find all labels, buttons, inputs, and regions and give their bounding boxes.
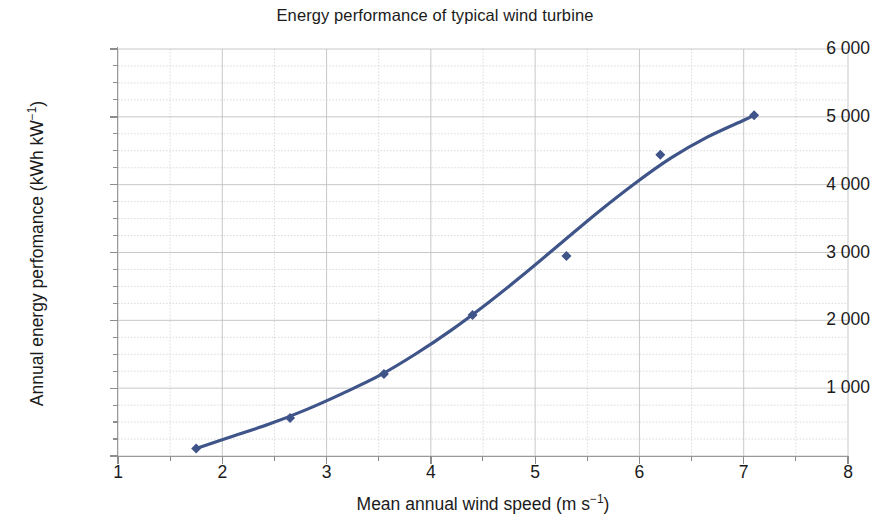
y-axis-title: Annual energy perfomance (kWh kW−1) [27,44,48,464]
y-axis-title-text: Annual energy perfomance (kWh kW [27,120,47,406]
y-tick-major [110,48,118,49]
y-tick-minor [113,286,118,287]
y-tick-minor [113,421,118,422]
y-tick-label: 5 000 [766,106,870,127]
y-tick-minor [113,133,118,134]
x-axis-title-tail: ) [604,494,610,514]
plot-area [118,49,848,456]
x-tick-minor [274,456,275,461]
trend-line [196,115,754,448]
x-tick-label: 4 [411,462,451,483]
data-point [561,251,571,261]
y-tick-major [110,252,118,253]
chart-container: Energy performance of typical wind turbi… [0,0,870,530]
data-point [655,150,665,160]
y-tick-major [110,388,118,389]
data-series-layer [118,49,848,456]
x-axis-title-exponent: −1 [590,492,604,506]
x-tick-label: 3 [307,462,347,483]
x-tick-minor [378,456,379,461]
y-tick-minor [113,99,118,100]
y-tick-major [110,320,118,321]
y-tick-minor [113,405,118,406]
x-tick-minor [691,456,692,461]
data-point [191,444,201,454]
y-tick-minor [113,438,118,439]
x-tick-minor [170,456,171,461]
x-tick-label: 5 [515,462,555,483]
chart-title: Energy performance of typical wind turbi… [0,6,870,25]
y-tick-minor [113,235,118,236]
y-tick-minor [113,150,118,151]
y-tick-minor [113,82,118,83]
y-tick-label: 6 000 [766,38,870,59]
x-tick-minor [587,456,588,461]
y-axis-title-exponent: −1 [25,107,39,121]
x-tick-minor [482,456,483,461]
y-tick-minor [113,201,118,202]
y-tick-label: 4 000 [766,174,870,195]
x-tick-label: 6 [619,462,659,483]
x-tick-label: 8 [828,462,868,483]
y-tick-label: 2 000 [766,309,870,330]
y-tick-minor [113,218,118,219]
x-tick-label: 7 [724,462,764,483]
y-tick-major [110,184,118,185]
y-tick-minor [113,65,118,66]
y-tick-minor [113,167,118,168]
y-tick-minor [113,269,118,270]
x-tick-minor [795,456,796,461]
y-tick-major [110,116,118,117]
x-tick-label: 2 [202,462,242,483]
x-axis-title-text: Mean annual wind speed (m s [357,494,590,514]
x-axis-title: Mean annual wind speed (m s−1) [118,494,848,515]
y-tick-label: 3 000 [766,242,870,263]
y-tick-minor [113,303,118,304]
x-tick-label: 1 [98,462,138,483]
data-point-markers [191,110,759,453]
y-tick-minor [113,354,118,355]
y-tick-minor [113,337,118,338]
y-axis-title-tail: ) [27,101,47,107]
y-tick-minor [113,371,118,372]
y-tick-label: 1 000 [766,377,870,398]
